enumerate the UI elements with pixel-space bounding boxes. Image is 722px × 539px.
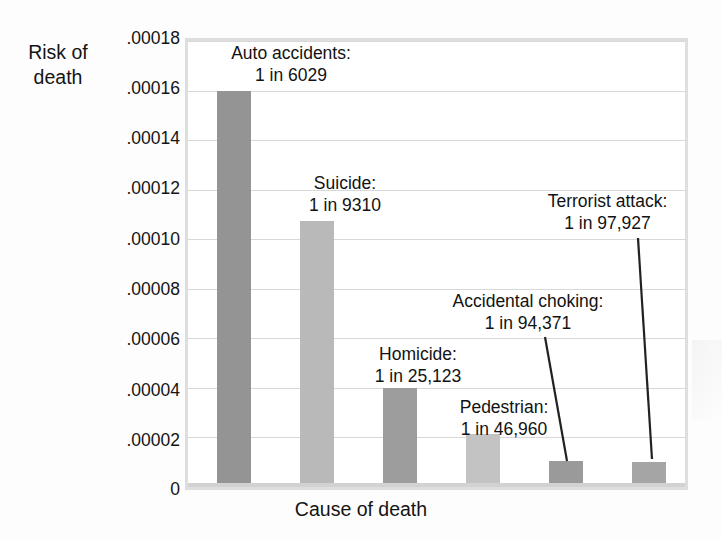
gridline [188,437,685,438]
x-axis-title: Cause of death [0,498,722,521]
gridline [188,91,685,92]
gridline [188,239,685,240]
bar-pedestrian [466,434,500,487]
y-tick-label: .00018 [84,28,180,49]
y-tick-label: .00006 [84,329,180,350]
y-axis-tick-labels: .00018 .00016 .00014 .00012 .00010 .0000… [80,0,180,539]
y-tick-label: .00008 [84,279,180,300]
bar-auto-accidents [217,91,251,487]
gridline [188,338,685,339]
gridline [188,289,685,290]
y-tick-label: .00010 [84,229,180,250]
bar-homicide [383,388,417,487]
gridline [188,140,685,141]
y-tick-label: .00014 [84,128,180,149]
plot-area [185,38,688,490]
plot-inner [188,41,685,487]
y-tick-label: .00002 [84,430,180,451]
gridline [188,388,685,389]
bar-suicide [300,221,334,487]
chart-figure: Risk of death .00018 .00016 .00014 .0001… [0,0,722,539]
x-axis-baseline [188,483,685,487]
gridline [188,190,685,191]
scan-edge-artifact [692,340,722,420]
y-tick-label: .00004 [84,380,180,401]
y-tick-label: 0 [84,479,180,500]
gridline [188,41,685,42]
y-tick-label: .00016 [84,78,180,99]
y-tick-label: .00012 [84,178,180,199]
